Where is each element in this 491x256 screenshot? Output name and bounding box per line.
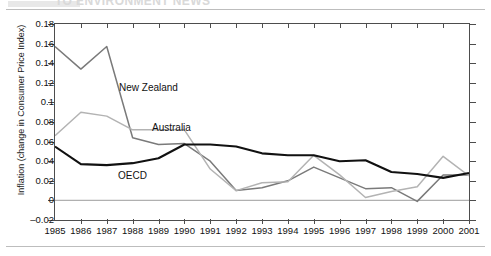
x-axis-tick (107, 219, 108, 224)
x-axis-tick (391, 219, 392, 224)
x-axis-tick-top (184, 23, 185, 28)
plot-area (54, 23, 470, 221)
y-axis-tick-right (470, 220, 476, 221)
x-axis-tick-label: 2001 (454, 225, 484, 236)
y-axis-tick-right (470, 181, 476, 182)
x-axis-tick-top (236, 23, 237, 28)
y-axis-tick-label: 0.18 (14, 19, 54, 29)
x-axis-tick-top (262, 23, 263, 28)
y-axis-tick-right (470, 200, 476, 201)
y-axis-tick-right (470, 83, 476, 84)
y-axis-tick-right (470, 142, 476, 143)
x-axis-label-group: 1985198619871988198919901991199219931994… (0, 225, 491, 241)
x-axis-tick (210, 219, 211, 224)
series-label-new-zealand: New Zealand (119, 82, 178, 93)
clipped-page-header: TO ENVIRONMENT NEWS (0, 0, 491, 9)
y-axis-tick-label: 0 (14, 195, 54, 205)
series-lines-svg (55, 24, 469, 220)
series-label-oecd: OECD (118, 170, 147, 181)
y-axis-tick-right (470, 24, 476, 25)
x-axis-tick-top (159, 23, 160, 28)
y-axis-tick-label: 0.1 (14, 97, 54, 107)
y-axis-tick-right (470, 44, 476, 45)
x-axis-tick (366, 219, 367, 224)
chart-page: TO ENVIRONMENT NEWS Inflation (change in… (0, 0, 491, 256)
x-axis-tick-top (107, 23, 108, 28)
y-axis-tick-label: 0.08 (14, 117, 54, 127)
x-axis-tick (443, 219, 444, 224)
x-axis-tick (288, 219, 289, 224)
x-axis-tick (314, 219, 315, 224)
y-axis-tick-label: 0.06 (14, 137, 54, 147)
x-axis-tick-top (340, 23, 341, 28)
y-axis-tick-label: 0.02 (14, 176, 54, 186)
x-axis-tick-top (81, 23, 82, 28)
y-axis-tick-right (470, 63, 476, 64)
x-axis-tick-top (314, 23, 315, 28)
y-axis-tick-right (470, 102, 476, 103)
x-axis-tick (133, 219, 134, 224)
x-axis-tick (184, 219, 185, 224)
series-label-australia: Australia (152, 122, 191, 133)
x-axis-tick (417, 219, 418, 224)
x-axis-tick-top (288, 23, 289, 28)
y-axis-tick-label: 0.16 (14, 39, 54, 49)
y-axis-tick-group: 0.180.160.140.120.10.080.060.040.020–0.0… (0, 0, 54, 244)
y-axis-tick-label: 0.12 (14, 78, 54, 88)
y-axis-tick-right (470, 161, 476, 162)
x-axis-tick (262, 219, 263, 224)
x-axis-tick-top (443, 23, 444, 28)
y-axis-tick-label: 0.04 (14, 156, 54, 166)
x-axis-tick (81, 219, 82, 224)
y-axis-tick-right (470, 122, 476, 123)
x-axis-tick-top (366, 23, 367, 28)
top-divider-rule (6, 9, 485, 10)
x-axis-tick (340, 219, 341, 224)
x-axis-tick (236, 219, 237, 224)
y-axis-tick-label: 0.14 (14, 58, 54, 68)
x-axis-tick-top (391, 23, 392, 28)
x-axis-tick (159, 219, 160, 224)
x-axis-tick-top (210, 23, 211, 28)
series-line-australia (55, 112, 469, 197)
x-axis-tick-top (133, 23, 134, 28)
y-axis-tick-label: –0.02 (14, 215, 54, 225)
header-title-clipped: TO ENVIRONMENT NEWS (55, 0, 210, 8)
x-axis-tick-top (417, 23, 418, 28)
bottom-divider-rule (6, 246, 485, 247)
